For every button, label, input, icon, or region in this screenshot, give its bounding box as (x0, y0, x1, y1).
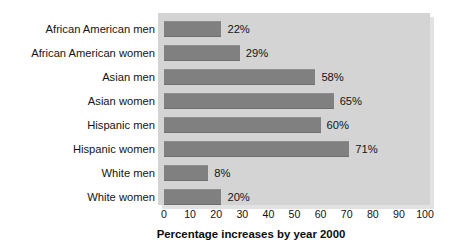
bar-row: African American women29% (0, 41, 452, 65)
x-axis-tick-label: 100 (416, 207, 434, 221)
bar-track: 8% (155, 161, 452, 185)
bar (164, 189, 221, 205)
x-axis-tick-label: 0 (161, 207, 167, 221)
x-axis-tick-label: 10 (184, 207, 196, 221)
bar-row: Hispanic men60% (0, 113, 452, 137)
category-label: White women (0, 191, 155, 204)
x-axis-tick-label: 80 (367, 207, 379, 221)
category-label: Hispanic men (0, 119, 155, 132)
bar (164, 45, 240, 61)
category-label: African American women (0, 47, 155, 60)
bar-row: African American men22% (0, 17, 452, 41)
bar-track: 22% (155, 17, 452, 41)
bar-row: Asian men58% (0, 65, 452, 89)
x-axis-tick-label: 70 (341, 207, 353, 221)
bar-value-label: 71% (355, 141, 377, 157)
bar-value-label: 29% (246, 45, 268, 61)
bar (164, 141, 349, 157)
bar-chart: African American men22%African American … (0, 0, 452, 251)
bar-value-label: 8% (214, 165, 230, 181)
bar (164, 69, 315, 85)
bar (164, 93, 334, 109)
bar-track: 65% (155, 89, 452, 113)
bar-track: 20% (155, 185, 452, 209)
bar-value-label: 22% (227, 21, 249, 37)
bar-row: Hispanic women71% (0, 137, 452, 161)
category-label: White men (0, 167, 155, 180)
bar-row: White women20% (0, 185, 452, 209)
x-axis-tick-label: 40 (262, 207, 274, 221)
bar (164, 117, 321, 133)
bar-row: Asian women65% (0, 89, 452, 113)
bar-track: 71% (155, 137, 452, 161)
category-label: Asian women (0, 95, 155, 108)
category-label: African American men (0, 23, 155, 36)
bar-rows: African American men22%African American … (0, 13, 452, 205)
x-axis-tick-label: 90 (393, 207, 405, 221)
x-axis-tick-label: 30 (236, 207, 248, 221)
bar-row: White men8% (0, 161, 452, 185)
bar (164, 165, 208, 181)
bar-track: 29% (155, 41, 452, 65)
bar-track: 60% (155, 113, 452, 137)
bar-value-label: 60% (327, 117, 349, 133)
bar-value-label: 65% (340, 93, 362, 109)
bar-value-label: 58% (321, 69, 343, 85)
x-axis-tick-label: 50 (289, 207, 301, 221)
x-axis-tick-label: 20 (210, 207, 222, 221)
x-axis-title: Percentage increases by year 2000 (0, 228, 452, 240)
x-axis-tick-label: 60 (315, 207, 327, 221)
bar-value-label: 20% (227, 189, 249, 205)
x-axis: 0102030405060708090100 (158, 207, 438, 223)
category-label: Hispanic women (0, 143, 155, 156)
category-label: Asian men (0, 71, 155, 84)
bar (164, 21, 221, 37)
bar-track: 58% (155, 65, 452, 89)
